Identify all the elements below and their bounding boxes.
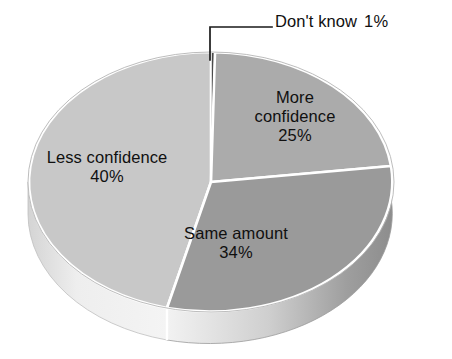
- pie-slice-more-confidence: [211, 52, 391, 182]
- pie-chart-graphic: [0, 0, 452, 359]
- pie-slices: [29, 52, 392, 312]
- pie-chart: More confidence 25% Less confidence 40% …: [0, 0, 452, 359]
